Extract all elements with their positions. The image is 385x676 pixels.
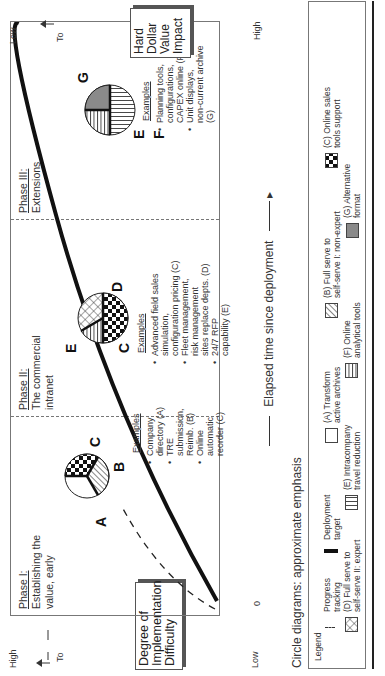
legend-e-swatch <box>345 495 358 510</box>
right-axis-title-line-4: Impact <box>172 12 185 54</box>
y-axis-to-label: To <box>55 652 65 662</box>
phase-1-title: Phase I: <box>17 535 30 609</box>
phase-2-subtitle-2: intranet <box>43 335 56 410</box>
right-axis-high-label: High <box>252 21 262 40</box>
phase-2-examples: Examples Advanced field salessimulation,… <box>136 225 230 365</box>
legend-header: Legend <box>313 633 323 661</box>
legend-item-c: (C) Online salestools support <box>323 87 342 148</box>
phase-2-title: Phase II: <box>17 335 30 410</box>
y-axis-high-label: High <box>8 649 18 668</box>
right-axis-title-box: Hard Dollar Value Impact <box>130 8 191 58</box>
phase-2-subtitle-1: The commercial <box>30 335 43 410</box>
legend-item-a: (A) Transformactive archives <box>323 367 342 423</box>
legend-item-d: (D) Full serve toself-serve II: expert <box>343 540 362 612</box>
legend-b-swatch <box>325 303 338 318</box>
phase-2-example-2: Fleet management,risk managementsites re… <box>180 225 210 356</box>
phase-3-header: Phase III: Extensions <box>17 162 43 213</box>
phase-1-subtitle-2: value, early <box>43 535 56 609</box>
pie-letter-d: D <box>109 282 125 292</box>
pie-letter-g: G <box>75 72 91 83</box>
phase-1-examples: Examples Companydirectory (A) TRE submis… <box>131 395 225 465</box>
phase-1-example-1: Companydirectory (A) <box>145 395 165 456</box>
legend-f-swatch <box>345 363 358 378</box>
legend-d-swatch <box>345 617 358 632</box>
phase-2-header: Phase II: The commercial intranet <box>17 335 56 410</box>
pie-letter-a: A <box>93 517 109 527</box>
pie-letter-c-2: C <box>116 343 132 353</box>
plot-area: Phase I: Establishing the value, early A… <box>10 21 220 616</box>
phase-2-example-1: Advanced field salessimulation,configura… <box>150 225 180 356</box>
legend-c-swatch <box>325 153 338 168</box>
legend-item-e: (E) Intracompanytravel reduction <box>343 425 362 490</box>
legend-item-b: (B) Full serve toself-serve I: non-exper… <box>323 211 342 298</box>
phase-3-pie <box>83 83 137 137</box>
y-axis-low-label: Low <box>250 651 260 668</box>
phase-2-pie <box>76 291 130 345</box>
legend-item-g: (G) Alternativeformat <box>343 164 362 218</box>
legend-item-deployment: Deploymenttarget <box>323 495 342 540</box>
x-axis-title: Elapsed time since deployment <box>262 241 276 407</box>
progress-tracking-curve <box>121 505 215 609</box>
rotated-diagram-canvas: High To Degree of Implementation Difficu… <box>0 0 385 676</box>
phase-1-header: Phase I: Establishing the value, early <box>17 535 56 609</box>
pie-letter-c: C <box>87 437 103 447</box>
phase-1-subtitle-1: Establishing the <box>30 535 43 609</box>
circle-diagram-caption: Circle diagrams: approximate emphasis <box>290 457 304 668</box>
x-axis-title-row: Elapsed time since deployment ▸ <box>262 192 276 446</box>
pie-letter-e-2: E <box>63 344 79 353</box>
pie-letter-b: B <box>111 462 127 472</box>
phase-2-examples-header: Examples <box>136 225 146 353</box>
phase-1-pie <box>63 452 111 500</box>
phase-1-examples-header: Examples <box>131 395 141 453</box>
legend-deployment-swatch <box>324 549 338 553</box>
legend-item-f: (F) Onlineanalytical tools <box>343 302 362 358</box>
phase-1-example-2: TRE submission,Reimb. (B) <box>165 395 195 456</box>
legend-progress-swatch <box>325 617 335 628</box>
phase-3-title: Phase III: <box>17 162 30 213</box>
right-axis-low-label: Low <box>8 27 18 44</box>
phase-3-subtitle-1: Extensions <box>30 162 43 213</box>
legend-g-swatch <box>346 223 359 238</box>
phase-1-example-3: Online automaticreorder (C) <box>195 395 225 456</box>
phase-2-example-3: 24/7 RFPcapability (E) <box>210 225 230 356</box>
x-axis-origin-label: 0 <box>252 601 262 606</box>
legend-a-swatch <box>325 428 338 443</box>
right-axis-to-label: To <box>55 32 65 42</box>
right-arrow-icon: ▸ <box>262 192 276 198</box>
legend-item-progress: Progresstracking <box>323 578 342 612</box>
bottom-rule <box>372 1 374 669</box>
legend-box: Legend Progresstracking Deploymenttarget… <box>308 1 366 669</box>
